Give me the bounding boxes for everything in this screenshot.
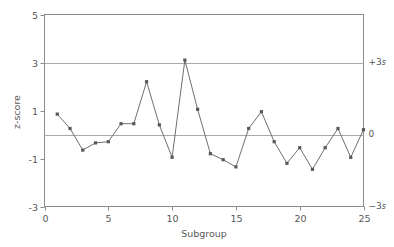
x-axis-ticks (46, 207, 365, 211)
data-point-marker (81, 149, 84, 152)
plot-frame (45, 15, 364, 207)
center-line-label: 0 (369, 130, 375, 139)
data-point-marker (68, 127, 71, 130)
x-tick-label: 20 (286, 214, 316, 224)
control-chart: 531-1-3 0510152025 +3s0−3s Subgroup z-sc… (0, 0, 394, 247)
data-point-marker (56, 113, 59, 116)
data-point-marker (349, 156, 352, 159)
y-tick-label: 3 (14, 59, 38, 69)
y-tick-label: 5 (14, 11, 38, 21)
x-tick-label: 15 (222, 214, 252, 224)
reference-lines (45, 64, 364, 136)
data-point-marker (171, 156, 174, 159)
upper-control-limit-label: +3s (369, 58, 386, 67)
y-tick-label: -1 (14, 155, 38, 165)
y-axis-ticks (41, 16, 45, 208)
data-point-marker (273, 140, 276, 143)
data-point-marker (285, 162, 288, 165)
data-point-marker (132, 122, 135, 125)
data-point-marker (183, 59, 186, 62)
sigma-symbol: s (382, 58, 386, 67)
data-point-marker (119, 122, 122, 125)
limit-label-value: 0 (369, 129, 375, 139)
plot-border (45, 15, 364, 207)
data-point-marker (336, 127, 339, 130)
x-tick-label: 10 (158, 214, 188, 224)
data-point-marker (94, 141, 97, 144)
data-point-marker (324, 146, 327, 149)
data-point-marker (145, 80, 148, 83)
x-tick-label: 5 (94, 214, 124, 224)
data-point-marker (196, 108, 199, 111)
sigma-symbol: s (382, 202, 386, 211)
x-axis-title: Subgroup (174, 229, 234, 239)
data-point-marker (209, 152, 212, 155)
data-point-marker (158, 123, 161, 126)
lower-control-limit-label: −3s (369, 202, 386, 211)
data-point-marker (311, 168, 314, 171)
data-point-marker (107, 140, 110, 143)
data-point-marker (260, 110, 263, 113)
y-axis-title: z-score (12, 95, 22, 129)
limit-label-value: +3 (369, 57, 382, 67)
data-point-marker (362, 128, 365, 131)
data-point-marker (234, 165, 237, 168)
limit-label-value: −3 (369, 201, 382, 211)
y-tick-label: -3 (14, 203, 38, 213)
data-point-marker (298, 146, 301, 149)
data-point-marker (222, 158, 225, 161)
chart-canvas (0, 0, 394, 247)
x-tick-label: 25 (350, 214, 380, 224)
data-series-markers (56, 59, 365, 171)
x-tick-label: 0 (31, 214, 61, 224)
data-point-marker (247, 127, 250, 130)
